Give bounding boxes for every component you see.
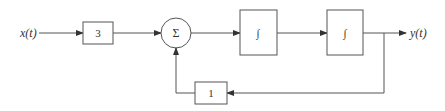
gain-block: 3 — [83, 22, 113, 44]
sigma-icon: Σ — [173, 26, 180, 40]
integrator-block-2: ∫ — [327, 10, 363, 55]
feedback-return-line — [176, 48, 195, 93]
gain-label: 3 — [95, 27, 101, 39]
summing-junction: Σ — [161, 18, 191, 48]
integrator-block-1: ∫ — [240, 10, 277, 55]
block-diagram: x(t) 3 Σ ∫ ∫ y(t) 1 — [0, 0, 445, 111]
output-label: y(t) — [409, 26, 427, 40]
input-label: x(t) — [19, 26, 37, 40]
feedback-gain-label: 1 — [208, 87, 214, 99]
feedback-gain-block: 1 — [195, 82, 227, 104]
